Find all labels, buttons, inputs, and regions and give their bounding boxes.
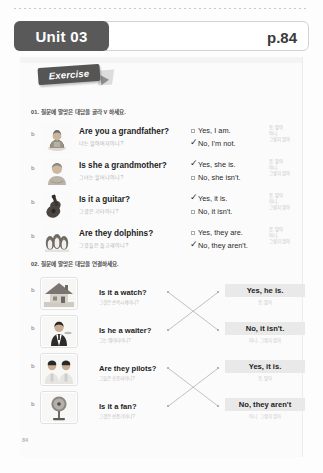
section-1-title: 01. 질문에 알맞은 대답을 골라 V 하세요. [31,108,126,116]
question-text-en: Are they pilots? [99,364,156,373]
audio-bullet-icon: b [31,233,39,240]
question-text-ko: 그녀는 할머니이니? [79,173,123,180]
korean-gloss-line: 그렇지 않아 [269,205,313,211]
page-reference: p.84 [267,22,297,52]
answer-text: No, she isn't. [198,173,241,182]
answer-options: ✓ Yes, she is. No, she isn't. [191,158,263,184]
audio-bullet-icon: b [31,199,39,206]
answer-choice-gloss: 응, 맞아 [225,299,305,305]
answer-option[interactable]: ✓ Yes, it is. [191,192,263,205]
audio-bullet-icon: b [31,287,39,294]
answer-choice-box[interactable]: Yes, it is. [225,360,305,373]
question-text-ko: 그것은 선풍기이니? [99,413,135,419]
question-text-en: Is it a watch? [99,288,147,297]
audio-bullet-icon: b [31,131,39,138]
korean-gloss: 응, 맞아아니,그렇지 않아 [269,159,313,178]
answer-option[interactable]: Yes, they are. [191,226,263,239]
matching-row: b Is it a fan? 그것은 선풍기이니? No, they aren'… [31,391,307,427]
korean-gloss-line: 그렇지 않아 [269,171,313,177]
top-dotted-divider [14,8,309,9]
audio-bullet-icon: b [31,401,39,408]
check-mark-icon: ✓ [190,240,198,249]
check-mark-icon: ✓ [190,138,198,147]
question-row: b Is she a grandmother? 그녀는 할머니이니? ✓ Yes… [31,155,307,189]
check-mark-icon: ✓ [190,193,198,202]
korean-gloss: 응, 맞아아니,그렇지 않아 [269,125,313,144]
answer-choice-gloss: 아니, 그렇지 않아 [225,413,305,419]
matching-row: b Are they pilots? 그들은 조종사이니? Yes, it is… [31,353,307,389]
connector-dot-right[interactable] [217,367,219,369]
matching-row: b Is he a waiter? 그는 웨이터이니? No, it isn't… [31,315,307,351]
elderly-woman-photo [42,157,72,187]
exercise-arrow-icon [101,75,110,86]
question-text-ko: 그것은 손목시계이니? [99,299,139,305]
korean-gloss-line: 그렇지 않아 [269,137,313,143]
answer-option[interactable]: ✓ No, I'm not. [191,137,263,150]
guitar-photo [42,191,72,221]
answer-text: Yes, they are. [198,228,243,237]
section-2-title: 02. 질문에 알맞은 대답을 연결하세요. [31,260,119,268]
checkbox[interactable] [191,231,195,235]
answer-option[interactable]: No, it isn't. [191,205,263,218]
fan-photo [40,391,78,424]
connector-dot-left[interactable] [167,329,169,331]
connector-dot-right[interactable] [217,291,219,293]
question-text-en: Are you a grandfather? [79,127,169,136]
audio-bullet-icon: b [31,325,39,332]
answer-option[interactable]: Yes, I am. [191,124,263,137]
penguins-photo [42,225,72,255]
question-text-en: Is he a waiter? [99,326,151,335]
question-text-en: Is it a fan? [99,402,137,411]
unit-tag: Unit 03 [14,21,109,51]
answer-text: No, they aren't. [198,241,248,250]
answer-choice-box[interactable]: No, they aren't [225,398,305,411]
question-row: b Are they dolphins? 그것들은 돌고래이니? Yes, th… [31,223,307,257]
matching-row: b Is it a watch? 그것은 손목시계이니? Yes, he is.… [31,277,307,313]
check-mark-icon: ✓ [190,159,198,168]
answer-text: Yes, I am. [198,126,231,135]
connector-dot-right[interactable] [217,329,219,331]
footer-page-number: 84 [22,437,28,443]
question-text-en: Is it a guitar? [79,195,130,204]
connector-dot-left[interactable] [167,291,169,293]
korean-gloss: 응, 맞아아니,그렇지 않아 [269,227,313,246]
answer-option[interactable]: No, she isn't. [191,171,263,184]
question-text-en: Are they dolphins? [79,229,153,238]
answer-options: Yes, I am. ✓ No, I'm not. [191,124,263,150]
answer-choice-box[interactable]: Yes, he is. [225,284,305,297]
question-text-ko: 너는 할아버지이니? [79,139,123,146]
question-text-en: Is she a grandmother? [79,161,167,170]
answer-text: No, it isn't. [198,207,232,216]
worksheet-page: Unit 03 p.84 Exercise 01. 질문에 알맞은 대답을 골라… [0,0,323,473]
answer-options: Yes, they are. ✓ No, they aren't. [191,226,263,252]
question-text-ko: 그는 웨이터이니? [99,337,131,343]
connector-dot-left[interactable] [167,367,169,369]
answer-option[interactable]: ✓ No, they aren't. [191,239,263,252]
connector-dot-left[interactable] [167,405,169,407]
answer-choice-box[interactable]: No, it isn't. [225,322,305,335]
korean-gloss-line: 그렇지 않아 [269,239,313,245]
answer-choice-gloss: 아니, 그렇지 않아 [225,337,305,343]
answer-text: No, I'm not. [198,139,236,148]
answer-option[interactable]: ✓ Yes, she is. [191,158,263,171]
answer-text: Yes, she is. [198,160,236,169]
page-header: Unit 03 p.84 [14,21,309,51]
waiter-photo [40,315,78,348]
elderly-man-photo [42,123,72,153]
question-row: b Is it a guitar? 그것은 기타이니? ✓ Yes, it is… [31,189,307,223]
audio-bullet-icon: b [31,165,39,172]
korean-gloss: 응, 맞아아니,그렇지 않아 [269,193,313,212]
question-text-ko: 그들은 조종사이니? [99,375,135,381]
unit-label: Unit 03 [35,28,87,45]
question-text-ko: 그것들은 돌고래이니? [79,241,128,248]
house-photo [40,277,78,310]
answer-text: Yes, it is. [198,194,227,203]
question-row: b Are you a grandfather? 너는 할아버지이니? Yes,… [31,121,307,155]
audio-bullet-icon: b [31,363,39,370]
pilots-photo [40,353,78,386]
checkbox[interactable] [191,176,195,180]
checkbox[interactable] [191,129,195,133]
connector-dot-right[interactable] [217,405,219,407]
checkbox[interactable] [191,210,195,214]
answer-options: ✓ Yes, it is. No, it isn't. [191,192,263,218]
